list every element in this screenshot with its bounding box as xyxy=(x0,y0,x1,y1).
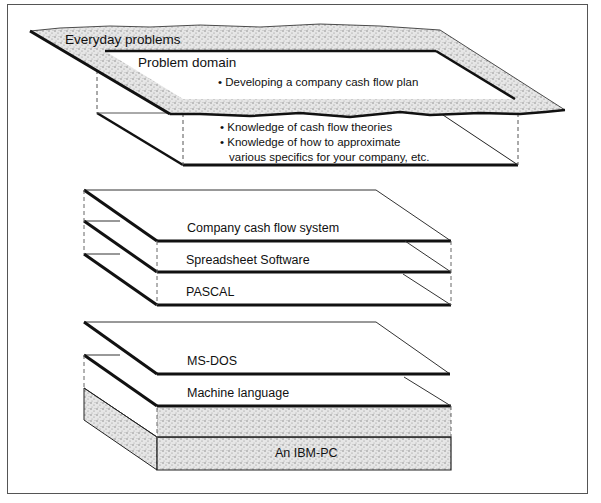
knowledge-bullet-2-cont: various specifics for your company, etc. xyxy=(229,150,429,165)
problem-domain-bullet: • Developing a company cash flow plan xyxy=(218,75,418,90)
cash-flow-system-label: Company cash flow system xyxy=(187,221,339,235)
software-group xyxy=(84,190,451,305)
everyday-problems-label: Everyday problems xyxy=(65,32,181,47)
ms-dos-label: MS-DOS xyxy=(187,354,237,368)
ibm-pc-label: An IBM-PC xyxy=(275,446,338,460)
pascal-label: PASCAL xyxy=(186,285,234,299)
knowledge-bullet-1: • Knowledge of cash flow theories xyxy=(220,120,392,135)
spreadsheet-software-label: Spreadsheet Software xyxy=(186,253,310,267)
problem-domain-label: Problem domain xyxy=(138,55,236,70)
knowledge-bullet-2: • Knowledge of how to approximate xyxy=(220,135,400,150)
machine-language-label: Machine language xyxy=(187,386,289,400)
ibm-pc-block xyxy=(84,388,157,470)
